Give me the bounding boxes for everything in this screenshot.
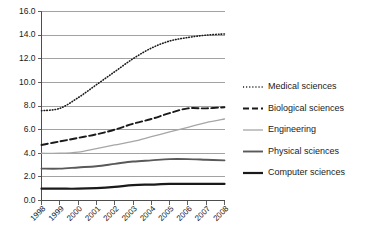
x-tick-label: 2007 xyxy=(193,204,212,223)
series-line-biological-sciences xyxy=(42,107,225,145)
x-tick-label: 2006 xyxy=(175,204,194,223)
chart-legend: Medical sciencesBiological sciencesEngin… xyxy=(243,81,346,177)
x-tick-label: 2005 xyxy=(157,204,176,223)
legend-label-computer-sciences: Computer sciences xyxy=(268,167,346,177)
series-lines xyxy=(42,34,225,189)
x-tick-label: 2003 xyxy=(120,204,139,223)
y-tick-label: 14.0 xyxy=(19,29,36,39)
x-tick-label: 2008 xyxy=(211,204,230,223)
y-tick-label: 4.0 xyxy=(24,148,36,158)
chart-canvas: 16.014.012.010.08.06.04.02.00.0 19981999… xyxy=(0,0,370,248)
series-line-medical-sciences xyxy=(42,34,225,111)
x-tick-label: 1999 xyxy=(47,204,66,223)
series-line-computer-sciences xyxy=(42,184,225,189)
y-tick-label: 0.0 xyxy=(24,195,36,205)
gridlines xyxy=(42,12,225,201)
y-tick-label: 16.0 xyxy=(19,6,36,16)
y-tick-label: 2.0 xyxy=(24,171,36,181)
legend-label-engineering: Engineering xyxy=(268,124,316,134)
legend-label-biological-sciences: Biological sciences xyxy=(268,103,345,113)
x-tick-label: 1998 xyxy=(28,204,47,223)
x-tick-labels: 1998199920002001200220032004200520062007… xyxy=(28,201,230,223)
legend-label-physical-sciences: Physical sciences xyxy=(268,146,340,156)
legend-label-medical-sciences: Medical sciences xyxy=(268,81,337,91)
x-tick-label: 2001 xyxy=(83,204,102,223)
x-tick-label: 2000 xyxy=(65,204,84,223)
x-tick-label: 2002 xyxy=(102,204,121,223)
y-tick-labels: 16.014.012.010.08.06.04.02.00.0 xyxy=(19,6,42,205)
series-line-physical-sciences xyxy=(42,159,225,169)
y-tick-label: 10.0 xyxy=(19,77,36,87)
x-tick-label: 2004 xyxy=(138,204,157,223)
line-chart: 16.014.012.010.08.06.04.02.00.0 19981999… xyxy=(0,0,370,248)
y-tick-label: 6.0 xyxy=(24,124,36,134)
y-tick-label: 12.0 xyxy=(19,53,36,63)
y-tick-label: 8.0 xyxy=(24,100,36,110)
